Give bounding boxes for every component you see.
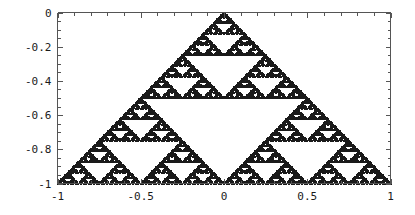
scatter-point xyxy=(90,148,92,150)
scatter-point xyxy=(304,137,306,139)
scatter-point xyxy=(354,154,356,156)
scatter-point xyxy=(228,49,230,51)
scatter-point xyxy=(282,93,284,95)
scatter-point xyxy=(311,134,313,136)
scatter-point xyxy=(153,89,155,91)
scatter-point xyxy=(233,44,235,46)
scatter-point xyxy=(92,154,94,156)
scatter-point xyxy=(207,92,209,94)
scatter-point xyxy=(252,158,254,160)
scatter-point xyxy=(198,96,200,98)
scatter-point xyxy=(194,172,196,174)
scatter-point xyxy=(363,172,365,174)
scatter-point xyxy=(248,37,250,39)
scatter-point xyxy=(272,174,274,176)
scatter-point xyxy=(274,96,276,98)
scatter-point xyxy=(300,133,302,135)
scatter-point xyxy=(179,137,181,139)
scatter-point xyxy=(319,140,321,142)
scatter-point xyxy=(228,92,230,94)
scatter-point xyxy=(311,113,313,115)
scatter-point xyxy=(259,60,261,62)
scatter-point xyxy=(289,168,291,170)
scatter-point xyxy=(190,173,192,175)
scatter-point xyxy=(289,178,291,180)
scatter-point xyxy=(276,138,278,140)
scatter-point xyxy=(295,96,297,98)
scatter-point xyxy=(122,121,124,123)
scatter-point xyxy=(159,120,161,122)
scatter-point xyxy=(252,52,254,54)
scatter-point xyxy=(96,158,98,160)
scatter-point xyxy=(324,121,326,123)
scatter-point xyxy=(343,134,345,136)
scatter-point xyxy=(185,93,187,95)
scatter-point xyxy=(125,128,127,130)
scatter-point xyxy=(148,94,150,96)
scatter-point xyxy=(103,148,105,150)
scatter-point xyxy=(302,96,304,98)
scatter-point xyxy=(287,120,289,122)
scatter-point xyxy=(311,177,313,179)
scatter-point xyxy=(105,136,107,138)
scatter-point xyxy=(179,94,181,96)
scatter-point xyxy=(60,178,62,180)
scatter-point xyxy=(174,68,176,70)
scatter-point xyxy=(256,45,258,47)
scatter-point xyxy=(311,180,313,182)
scatter-point xyxy=(354,176,356,178)
scatter-point xyxy=(311,116,313,118)
scatter-point xyxy=(157,168,159,170)
scatter-point xyxy=(354,160,356,162)
scatter-point xyxy=(339,130,341,132)
scatter-point xyxy=(107,152,109,154)
scatter-point xyxy=(319,180,321,182)
scatter-point xyxy=(164,93,166,95)
scatter-point xyxy=(337,140,339,142)
scatter-point xyxy=(148,180,150,182)
scatter-point xyxy=(347,149,349,151)
scatter-point xyxy=(326,138,328,140)
scatter-point xyxy=(285,164,287,166)
scatter-point xyxy=(146,112,148,114)
scatter-point xyxy=(300,90,302,92)
scatter-point xyxy=(213,44,215,46)
scatter-point xyxy=(216,18,218,20)
scatter-point xyxy=(116,172,118,174)
scatter-point xyxy=(332,134,334,136)
scatter-point xyxy=(99,149,101,151)
scatter-point xyxy=(194,180,196,182)
scatter-point xyxy=(157,178,159,180)
scatter-point xyxy=(200,52,202,54)
scatter-point xyxy=(276,170,278,172)
scatter-point xyxy=(146,133,148,135)
scatter-point xyxy=(269,96,271,98)
scatter-point xyxy=(267,62,269,64)
scatter-point xyxy=(267,158,269,160)
scatter-point xyxy=(144,96,146,98)
scatter-point xyxy=(83,166,85,168)
scatter-point xyxy=(194,41,196,43)
scatter-point xyxy=(235,88,237,90)
scatter-point xyxy=(293,174,295,176)
scatter-point xyxy=(337,156,339,158)
scatter-point xyxy=(267,65,269,67)
scatter-point xyxy=(181,65,183,67)
scatter-point xyxy=(378,170,380,172)
scatter-point xyxy=(127,180,129,182)
scatter-point xyxy=(324,172,326,174)
scatter-point xyxy=(328,128,330,130)
scatter-point xyxy=(233,172,235,174)
scatter-point xyxy=(174,89,176,91)
scatter-point xyxy=(280,166,282,168)
scatter-point xyxy=(190,152,192,154)
scatter-point xyxy=(220,33,222,35)
scatter-point xyxy=(203,181,205,183)
scatter-point xyxy=(269,58,271,60)
scatter-point xyxy=(337,132,339,134)
scatter-point xyxy=(259,76,261,78)
scatter-point xyxy=(112,125,114,127)
scatter-point xyxy=(153,110,155,112)
scatter-point xyxy=(116,140,118,142)
scatter-point xyxy=(350,148,352,150)
